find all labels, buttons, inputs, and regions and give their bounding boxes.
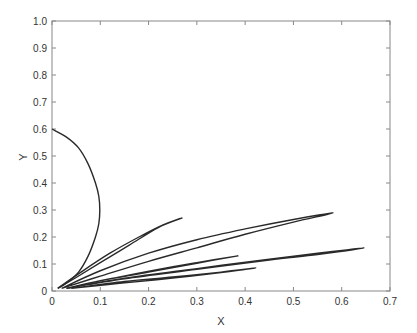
- y-tick-label: 0: [41, 286, 47, 297]
- y-tick-label: 0.3: [33, 205, 47, 216]
- series-line-loop-0.64: [66, 248, 363, 288]
- y-tick-label: 0.2: [33, 232, 47, 243]
- x-tick-label: 0.7: [383, 296, 397, 307]
- y-tick-label: 0.8: [33, 70, 47, 81]
- x-tick-label: 0.1: [93, 296, 107, 307]
- x-tick-label: 0: [49, 296, 55, 307]
- y-tick-label: 0.7: [33, 97, 47, 108]
- x-tick-label: 0.2: [142, 296, 156, 307]
- x-tick-label: 0.6: [335, 296, 349, 307]
- x-axis-label: X: [217, 315, 225, 327]
- y-axis-label: Y: [17, 153, 29, 161]
- x-tick-label: 0.4: [238, 296, 252, 307]
- y-tick-label: 1.0: [33, 16, 47, 27]
- y-tick-label: 0.5: [33, 151, 47, 162]
- x-tick-label: 0.5: [286, 296, 300, 307]
- data-series: [52, 129, 364, 288]
- x-axis-ticks: 00.10.20.30.40.50.60.7: [49, 21, 397, 307]
- chart: 00.10.20.30.40.50.60.7 00.10.20.30.40.50…: [0, 0, 417, 333]
- y-tick-label: 0.1: [33, 259, 47, 270]
- y-tick-label: 0.4: [33, 178, 47, 189]
- y-tick-label: 0.9: [33, 43, 47, 54]
- x-tick-label: 0.3: [190, 296, 204, 307]
- y-axis-ticks: 00.10.20.30.40.50.60.70.80.91.0: [33, 16, 390, 297]
- series-line-loop-0.58: [62, 213, 333, 288]
- y-tick-label: 0.6: [33, 124, 47, 135]
